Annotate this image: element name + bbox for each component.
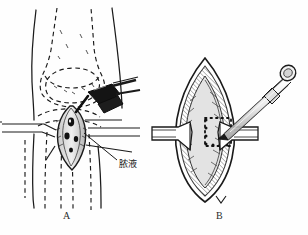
figure-root: A B 脓液 (0, 0, 308, 235)
paper-background (0, 0, 308, 235)
pus-annotation-label: 脓液 (119, 157, 137, 170)
panel-caption-a: A (63, 210, 71, 221)
panel-caption-b: B (216, 210, 223, 221)
medical-illustration-svg (0, 0, 308, 235)
